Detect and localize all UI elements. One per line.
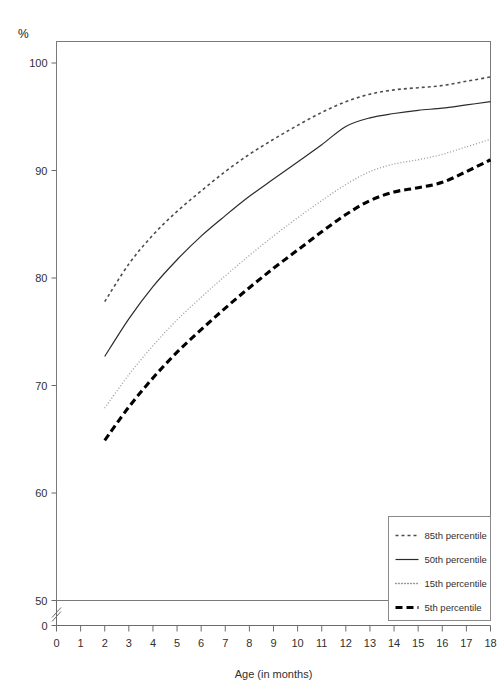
x-tick-label-1: 1	[78, 637, 84, 649]
x-tick-label-18: 18	[484, 637, 496, 649]
legend-label-1: 50th percentile	[425, 554, 487, 565]
y-axis-unit-label: %	[18, 27, 29, 41]
legend-label-3: 5th percentile	[425, 602, 482, 613]
x-tick-label-4: 4	[150, 637, 156, 649]
series-line-0	[105, 77, 491, 302]
x-tick-label-6: 6	[198, 637, 204, 649]
percentile-line-chart: 0506070809010001234567891011121314151617…	[0, 0, 504, 694]
x-tick-label-14: 14	[388, 637, 400, 649]
x-tick-label-15: 15	[412, 637, 424, 649]
x-tick-label-16: 16	[436, 637, 448, 649]
y-tick-label-60: 60	[35, 487, 47, 499]
x-tick-label-13: 13	[364, 637, 376, 649]
y-tick-label-0: 0	[41, 620, 47, 632]
x-tick-label-11: 11	[316, 637, 327, 649]
series-line-3	[105, 160, 491, 441]
x-tick-label-2: 2	[102, 637, 108, 649]
y-tick-label-90: 90	[35, 165, 47, 177]
x-tick-label-17: 17	[460, 637, 472, 649]
legend-label-0: 85th percentile	[425, 530, 487, 541]
x-tick-label-7: 7	[222, 637, 228, 649]
y-tick-label-100: 100	[29, 57, 47, 69]
x-tick-label-12: 12	[340, 637, 352, 649]
x-axis-title: Age (in months)	[235, 668, 313, 680]
x-tick-label-8: 8	[246, 637, 252, 649]
y-tick-label-80: 80	[35, 272, 47, 284]
chart-figure: 0506070809010001234567891011121314151617…	[0, 0, 504, 694]
x-tick-label-5: 5	[174, 637, 180, 649]
x-tick-label-0: 0	[53, 637, 59, 649]
y-tick-label-70: 70	[35, 380, 47, 392]
y-tick-label-50: 50	[35, 595, 47, 607]
series-line-1	[105, 102, 491, 357]
legend-label-2: 15th percentile	[425, 578, 487, 589]
x-tick-label-9: 9	[270, 637, 276, 649]
x-tick-label-10: 10	[291, 637, 303, 649]
x-tick-label-3: 3	[126, 637, 132, 649]
